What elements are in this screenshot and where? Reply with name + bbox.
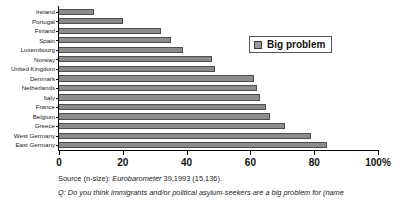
bar-row	[59, 55, 378, 65]
bar-row	[59, 131, 378, 141]
bar-row	[59, 7, 378, 17]
category-label-belgium: Belgium	[33, 112, 55, 122]
x-axis-tick-label: 60	[245, 157, 256, 168]
bar-luxembourg	[59, 47, 183, 53]
bar-portugal	[59, 18, 123, 24]
category-axis-labels: IrelandPortugalFinlandSpainLuxembourgNor…	[0, 7, 55, 150]
category-label-norway: Norway	[34, 55, 55, 65]
category-label-denmark: Denmark	[30, 74, 55, 84]
bar-denmark	[59, 75, 254, 81]
category-label-italy: Italy	[44, 93, 55, 103]
bar-france	[59, 104, 266, 110]
category-label-east-germany: East Germany	[15, 140, 55, 150]
category-label-portugal: Portugal	[32, 17, 55, 27]
bar-row	[59, 140, 378, 150]
category-label-spain: Spain	[39, 36, 55, 46]
bar-norway	[59, 56, 212, 62]
bar-east-germany	[59, 142, 327, 148]
bar-chart-figure: IrelandPortugalFinlandSpainLuxembourgNor…	[0, 0, 416, 203]
x-axis-tick	[314, 151, 315, 155]
category-label-france: France	[36, 102, 55, 112]
bar-row	[59, 26, 378, 36]
bar-united-kingdom	[59, 66, 215, 72]
x-axis-line	[58, 150, 379, 151]
category-label-finland: Finland	[35, 26, 55, 36]
category-label-united-kingdom: United Kingdom	[11, 64, 55, 74]
x-axis-tick	[250, 151, 251, 155]
bar-belgium	[59, 113, 270, 119]
bar-finland	[59, 28, 161, 34]
bar-row	[59, 112, 378, 122]
bar-row	[59, 17, 378, 27]
bar-netherlands	[59, 85, 257, 91]
x-axis-tick-label: 100%	[365, 157, 391, 168]
question-note: Q: Do you think immigrants and/or politi…	[58, 188, 344, 197]
category-label-luxembourg: Luxembourg	[21, 45, 55, 55]
x-axis-tick	[187, 151, 188, 155]
bar-greece	[59, 123, 285, 129]
chart-legend: Big problem	[249, 36, 332, 53]
bar-row	[59, 93, 378, 103]
category-label-west-germany: West Germany	[14, 131, 55, 141]
y-axis-line	[58, 6, 59, 151]
source-publication: Eurobarometer	[112, 174, 161, 183]
x-axis-tick-label: 40	[181, 157, 192, 168]
bar-row	[59, 102, 378, 112]
x-axis-tick	[59, 151, 60, 155]
bar-row	[59, 83, 378, 93]
bar-west-germany	[59, 133, 311, 139]
x-axis-tick-label: 0	[56, 157, 62, 168]
category-label-ireland: Ireland	[36, 7, 55, 17]
x-axis-tick-label: 20	[117, 157, 128, 168]
category-label-greece: Greece	[35, 121, 55, 131]
x-axis-tick-label: 80	[309, 157, 320, 168]
bar-ireland	[59, 9, 94, 15]
bar-italy	[59, 94, 260, 100]
source-prefix: Source (n-size):	[58, 174, 110, 183]
bar-row	[59, 64, 378, 74]
bar-row	[59, 74, 378, 84]
plot-area	[59, 7, 378, 150]
legend-swatch-big-problem	[254, 41, 262, 49]
legend-label-big-problem: Big problem	[267, 39, 325, 50]
x-axis-tick	[378, 151, 379, 155]
bar-spain	[59, 37, 171, 43]
source-note: Source (n-size): Eurobarometer 39,1993 (…	[58, 174, 222, 183]
source-suffix: 39,1993 (15,136).	[164, 174, 222, 183]
category-label-netherlands: Netherlands	[22, 83, 55, 93]
x-axis-tick	[123, 151, 124, 155]
bar-row	[59, 121, 378, 131]
